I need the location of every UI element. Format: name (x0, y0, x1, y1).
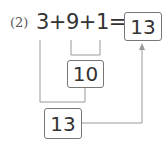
arrow-up-icon (139, 43, 145, 50)
final-sum-box: 13 (44, 108, 82, 139)
final-sum-value: 13 (50, 112, 75, 136)
partial-sum-box: 10 (67, 60, 104, 88)
expression: 3+9+1= (36, 10, 126, 34)
answer-value: 13 (130, 15, 155, 39)
problem-number: (2) (10, 15, 28, 30)
answer-box: 13 (124, 12, 162, 41)
partial-sum-value: 10 (73, 62, 98, 86)
